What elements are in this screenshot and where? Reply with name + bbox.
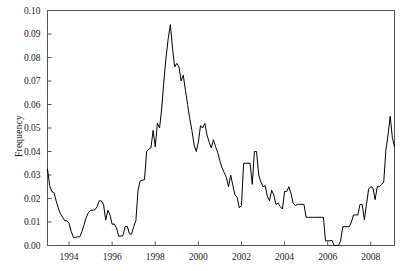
y-tick-label: 0.04 <box>24 147 41 157</box>
data-area <box>48 25 395 246</box>
y-tick-label: 0.06 <box>24 100 41 110</box>
y-tick-label: 0.07 <box>24 76 41 86</box>
x-tick-label: 1994 <box>60 252 79 262</box>
y-tick-label: 0.08 <box>24 53 41 63</box>
y-tick-label: 0.01 <box>24 217 41 227</box>
x-tick-label: 1998 <box>146 252 165 262</box>
x-tick-label: 2006 <box>318 252 337 262</box>
x-axis-tick-labels: 19941996199820002002200420062008 <box>60 252 381 262</box>
y-tick-label: 0.03 <box>24 170 41 180</box>
y-tick-label: 0.02 <box>24 194 41 204</box>
y-tick-label: 0.05 <box>24 123 41 133</box>
x-tick-label: 2000 <box>189 252 208 262</box>
y-tick-label: 0.09 <box>24 29 41 39</box>
x-tick-label: 2002 <box>232 252 251 262</box>
y-axis-tick-labels: 0.000.010.020.030.040.050.060.070.080.09… <box>24 6 41 251</box>
series-line-frequency <box>48 25 395 246</box>
y-tick-label: 0.00 <box>24 241 41 251</box>
line-chart: 0.000.010.020.030.040.050.060.070.080.09… <box>0 0 404 271</box>
y-axis-label: Frequency <box>14 91 24 181</box>
y-tick-label: 0.10 <box>24 6 41 16</box>
x-tick-label: 2004 <box>275 252 294 262</box>
plot-frame <box>48 11 395 246</box>
x-tick-label: 1996 <box>103 252 122 262</box>
figure: Frequency 0.000.010.020.030.040.050.060.… <box>0 0 404 271</box>
y-axis-ticks <box>48 34 52 222</box>
x-tick-label: 2008 <box>361 252 380 262</box>
x-axis-ticks <box>69 242 371 246</box>
axes-frame <box>48 11 395 246</box>
